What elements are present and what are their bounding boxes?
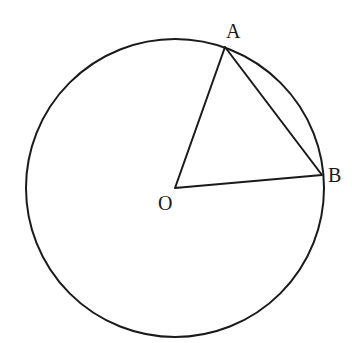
point-label-b: B	[328, 164, 341, 186]
triangle-oab	[175, 47, 322, 188]
point-label-a: A	[226, 20, 241, 42]
point-label-o: O	[158, 192, 172, 214]
geometry-diagram: A B O	[0, 0, 352, 343]
